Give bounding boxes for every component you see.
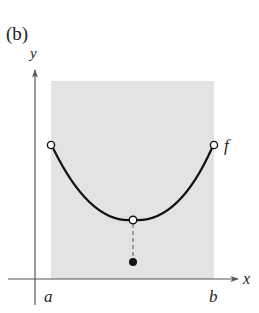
shaded-interval-region — [51, 81, 214, 279]
isolated-filled-dot — [129, 258, 137, 266]
y-axis-label: y — [28, 45, 37, 61]
diagram-canvas: (b) y x a b f — [0, 0, 259, 313]
minimum-open-circle — [129, 216, 137, 224]
panel-label: (b) — [6, 23, 28, 45]
interval-left-label: a — [44, 287, 53, 306]
function-label: f — [224, 136, 231, 155]
interval-right-label: b — [209, 287, 218, 306]
right-endpoint-open-circle — [210, 141, 217, 148]
left-endpoint-open-circle — [47, 141, 54, 148]
x-axis-label: x — [242, 270, 250, 287]
